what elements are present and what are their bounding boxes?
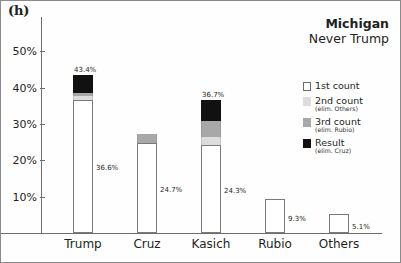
bar-segment-1st-count [73,100,93,233]
x-axis-label-trump: Trump [64,237,101,251]
bar-segment-result [201,100,221,121]
bar-value-label-first-count: 5.1% [352,223,370,231]
x-axis-label-kasich: Kasich [192,237,231,251]
bar-value-label-first-count: 24.3% [224,187,246,195]
bar-segment-3rd-count [137,134,157,143]
bar-kasich[interactable]: 24.3%36.7% [201,17,221,233]
y-axis-tick-label: 20% [13,154,37,167]
bar-segment-result [73,75,93,92]
x-axis-line [1,233,382,234]
bar-rubio[interactable]: 9.3% [265,17,285,233]
y-axis-tick-label: 30% [13,117,37,130]
bar-others[interactable]: 5.1% [329,17,349,233]
bar-value-label-total: 43.4% [74,66,96,74]
bar-value-label-first-count: 36.6% [96,164,118,172]
bar-value-label-first-count: 24.7% [160,186,182,194]
x-axis-label-others: Others [319,237,359,251]
y-axis-tick [40,88,45,89]
x-axis-label-rubio: Rubio [258,237,292,251]
bar-segment-3rd-count [73,93,93,97]
y-axis-tick-label: 50% [13,45,37,58]
bar-cruz[interactable]: 24.7% [137,17,157,233]
y-axis-tick-label: 40% [13,81,37,94]
figure-panel: (h) Michigan Never Trump 1st count2nd co… [0,0,401,263]
bar-value-label-total: 36.7% [202,91,224,99]
y-axis-tick-label: 10% [13,190,37,203]
bar-segment-1st-count [265,199,285,233]
bar-segment-3rd-count [201,121,221,137]
bar-segment-1st-count [201,145,221,233]
panel-label: (h) [8,3,29,18]
y-axis-tick [40,160,45,161]
y-axis-tick [40,51,45,52]
bar-segment-1st-count [137,143,157,233]
plot-area: 10%20%30%40%50%36.6%43.4%Trump24.7%Cruz2… [41,17,381,239]
bar-segment-2nd-count [73,96,93,100]
x-axis-label-cruz: Cruz [133,237,160,251]
y-axis-tick [40,124,45,125]
bar-trump[interactable]: 36.6%43.4% [73,17,93,233]
bar-value-label-first-count: 9.3% [288,215,306,223]
y-axis-tick [40,197,45,198]
y-axis-line [41,17,42,233]
bar-segment-2nd-count [201,137,221,144]
bar-segment-1st-count [329,214,349,233]
